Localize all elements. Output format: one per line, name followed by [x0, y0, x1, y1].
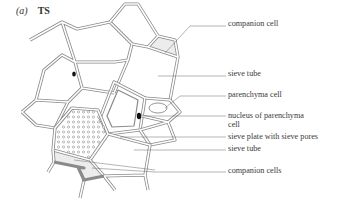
nucleus-parenchyma — [137, 113, 141, 119]
label-sieve-plate: sieve plate with sieve pores — [228, 133, 318, 142]
label-companion-cells: companion cells — [228, 167, 281, 176]
label-parenchyma-cell: parenchyma cell — [228, 91, 282, 100]
cell-drawing — [0, 0, 363, 212]
label-sieve-tube-top: sieve tube — [228, 70, 261, 79]
phloem-ts-diagram: (a)TS — [0, 0, 363, 212]
label-nucleus-parenchyma-cont: cell — [228, 121, 240, 130]
label-sieve-tube-bottom: sieve tube — [228, 145, 261, 154]
nucleus-small-left — [72, 71, 76, 76]
label-companion-cell: companion cell — [228, 20, 278, 29]
cell-walls — [22, 4, 180, 198]
